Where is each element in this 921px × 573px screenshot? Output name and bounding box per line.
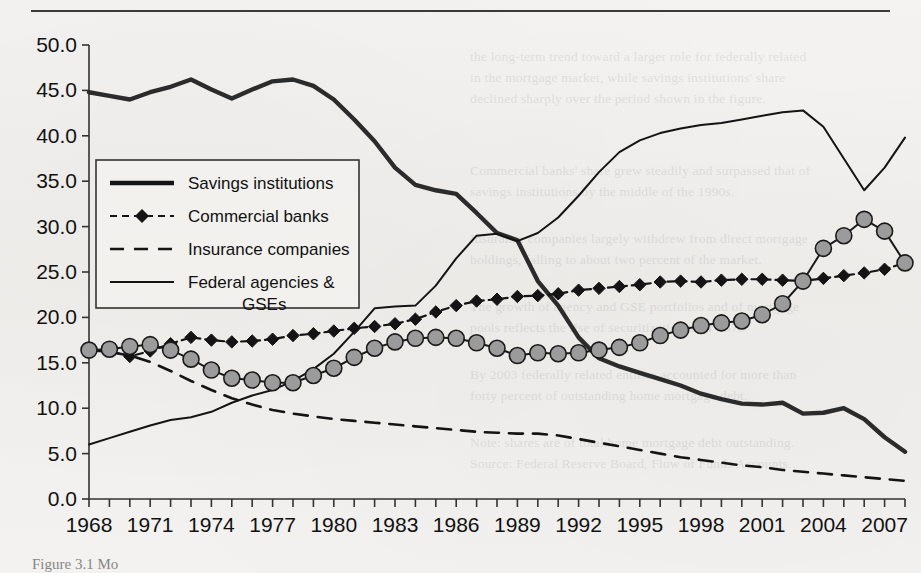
data-point-marker xyxy=(265,375,281,391)
data-point-marker xyxy=(185,331,197,343)
x-axis-tick-label: 1995 xyxy=(616,513,663,536)
data-point-marker xyxy=(469,335,485,351)
legend-label: Insurance companies xyxy=(188,240,350,259)
x-axis-tick-label: 1989 xyxy=(494,513,541,536)
data-point-marker xyxy=(509,348,525,364)
data-point-marker xyxy=(611,339,627,355)
data-point-marker xyxy=(858,267,870,279)
data-point-marker xyxy=(550,346,566,362)
data-point-marker xyxy=(878,263,890,275)
data-point-marker xyxy=(736,273,748,285)
figure-caption: Figure 3.1 Mo xyxy=(32,556,452,573)
data-point-marker xyxy=(305,368,321,384)
data-point-marker xyxy=(877,223,893,239)
data-point-marker xyxy=(838,269,850,281)
mortgage-market-share-chart: 0.05.010.015.020.025.030.035.040.045.050… xyxy=(0,0,921,540)
data-point-marker xyxy=(754,307,770,323)
data-point-marker xyxy=(368,320,380,332)
data-point-marker xyxy=(246,335,258,347)
y-axis-tick-label: 5.0 xyxy=(48,442,77,465)
data-point-marker xyxy=(346,349,362,365)
data-point-marker xyxy=(713,315,729,331)
legend-label: Federal agencies & xyxy=(188,273,335,292)
data-point-marker xyxy=(163,342,179,358)
data-point-marker xyxy=(693,318,709,334)
y-axis-tick-label: 0.0 xyxy=(48,487,77,510)
x-axis-tick-label: 1974 xyxy=(188,513,235,536)
data-point-marker xyxy=(203,362,219,378)
y-axis-tick-label: 45.0 xyxy=(36,78,77,101)
data-point-marker xyxy=(775,296,791,312)
data-point-marker xyxy=(287,329,299,341)
data-point-marker xyxy=(122,338,138,354)
data-point-marker xyxy=(489,340,505,356)
data-point-marker xyxy=(428,329,444,345)
data-point-marker xyxy=(470,295,482,307)
data-point-marker xyxy=(409,313,421,325)
data-point-marker xyxy=(389,318,401,330)
data-point-marker xyxy=(407,330,423,346)
data-point-marker xyxy=(695,276,707,288)
data-point-marker xyxy=(593,282,605,294)
x-axis-tick-label: 2001 xyxy=(739,513,786,536)
data-point-marker xyxy=(226,336,238,348)
x-axis-tick-label: 1998 xyxy=(678,513,725,536)
data-point-marker xyxy=(613,280,625,292)
x-axis-tick-label: 1992 xyxy=(555,513,602,536)
data-point-marker xyxy=(81,342,97,358)
data-point-marker xyxy=(491,293,503,305)
x-axis-tick-label: 1983 xyxy=(372,513,419,536)
legend-label: Commercial banks xyxy=(188,207,329,226)
y-axis-tick-label: 15.0 xyxy=(36,351,77,374)
data-point-marker xyxy=(591,342,607,358)
data-point-marker xyxy=(634,279,646,291)
chart-legend[interactable]: Savings institutionsCommercial banksInsu… xyxy=(96,160,359,314)
data-point-marker xyxy=(142,337,158,353)
x-axis: 1968197119741977198019831986198919921995… xyxy=(66,499,908,536)
data-point-marker xyxy=(328,325,340,337)
data-point-marker xyxy=(795,273,811,289)
x-axis-tick-label: 2004 xyxy=(800,513,847,536)
y-axis-tick-label: 10.0 xyxy=(36,396,77,419)
x-axis-tick-label: 1977 xyxy=(249,513,296,536)
data-point-marker xyxy=(776,274,788,286)
data-point-marker xyxy=(224,370,240,386)
data-point-marker xyxy=(856,211,872,227)
data-point-marker xyxy=(734,313,750,329)
x-axis-tick-label: 2007 xyxy=(861,513,908,536)
legend-label: Savings institutions xyxy=(188,174,334,193)
data-point-marker xyxy=(817,272,829,284)
data-point-marker xyxy=(897,255,913,271)
data-point-marker xyxy=(430,306,442,318)
data-point-marker xyxy=(674,275,686,287)
data-point-marker xyxy=(448,330,464,346)
x-axis-tick-label: 1971 xyxy=(127,513,174,536)
data-point-marker xyxy=(571,345,587,361)
data-point-marker xyxy=(530,345,546,361)
legend-label-continued: GSEs xyxy=(242,295,286,314)
data-point-marker xyxy=(756,273,768,285)
data-point-marker xyxy=(326,360,342,376)
data-point-marker xyxy=(836,228,852,244)
y-axis: 0.05.010.015.020.025.030.035.040.045.050… xyxy=(36,33,89,510)
data-point-marker xyxy=(511,290,523,302)
data-point-marker xyxy=(387,334,403,350)
data-point-marker xyxy=(307,328,319,340)
data-point-marker xyxy=(654,276,666,288)
data-point-marker xyxy=(244,372,260,388)
data-point-marker xyxy=(715,274,727,286)
x-axis-tick-label: 1986 xyxy=(433,513,480,536)
data-point-marker xyxy=(572,284,584,296)
data-point-marker xyxy=(632,335,648,351)
data-point-marker xyxy=(652,328,668,344)
y-axis-tick-label: 35.0 xyxy=(36,169,77,192)
data-point-marker xyxy=(815,240,831,256)
y-axis-tick-label: 50.0 xyxy=(36,33,77,56)
data-point-marker xyxy=(532,289,544,301)
x-axis-tick-label: 1968 xyxy=(66,513,113,536)
data-point-marker xyxy=(101,341,117,357)
x-axis-tick-label: 1980 xyxy=(310,513,357,536)
data-point-marker xyxy=(367,340,383,356)
data-point-marker xyxy=(205,334,217,346)
data-point-marker xyxy=(183,351,199,367)
